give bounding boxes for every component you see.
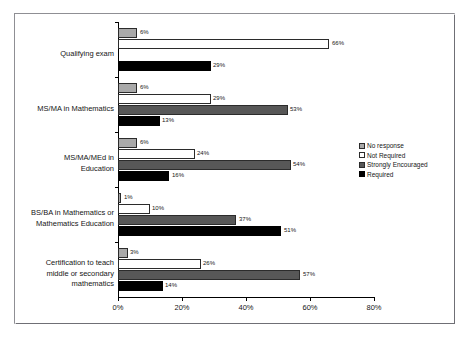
x-tick-label-1: 20%: [174, 303, 189, 312]
x-tick-0: [118, 297, 119, 301]
category-label-ms-ma-mathematics: MS/MA in Mathematics: [0, 104, 114, 115]
bar-value-no-response: 6%: [140, 82, 149, 93]
category-label-ms-ma-med-education: MS/MA/MEd in Education: [0, 153, 114, 174]
x-tick-label-0: 0%: [113, 303, 124, 312]
bar-no-response[interactable]: [118, 138, 137, 148]
bar-value-not-required: 29%: [213, 93, 225, 104]
x-tick-3: [310, 297, 311, 301]
x-tick-label-2: 40%: [238, 303, 253, 312]
bar-no-response[interactable]: [118, 28, 137, 38]
bar-no-response[interactable]: [118, 193, 121, 203]
legend-swatch-required-icon: [359, 171, 365, 177]
bar-strongly-encouraged[interactable]: [118, 270, 300, 280]
legend-item-required[interactable]: Required: [359, 170, 428, 180]
legend-label-strongly-encouraged: Strongly Encouraged: [367, 160, 428, 170]
legend-item-no-response[interactable]: No response: [359, 141, 428, 151]
bar-not-required[interactable]: [118, 39, 329, 49]
bar-required[interactable]: [118, 281, 163, 291]
legend-label-no-response: No response: [367, 141, 404, 151]
x-tick-2: [246, 297, 247, 301]
legend-swatch-not-required-icon: [359, 152, 365, 158]
y-tick-3: [115, 187, 118, 188]
bar-value-required: 29%: [213, 60, 225, 71]
bar-required[interactable]: [118, 61, 211, 71]
bar-required[interactable]: [118, 226, 281, 236]
x-tick-label-3: 60%: [302, 303, 317, 312]
legend-item-strongly-encouraged[interactable]: Strongly Encouraged: [359, 160, 428, 170]
category-label-certification: Certification to teach middle or seconda…: [0, 258, 114, 290]
bar-not-required[interactable]: [118, 149, 195, 159]
bar-value-strongly-encouraged: 53%: [290, 104, 302, 115]
category-label-qualifying-exam: Qualifying exam: [0, 49, 114, 60]
bar-value-required: 14%: [165, 280, 177, 291]
bar-not-required[interactable]: [118, 259, 201, 269]
chart-legend: No response Not Required Strongly Encour…: [359, 141, 428, 179]
y-tick-4: [115, 242, 118, 243]
category-label-bs-ba-mathematics: BS/BA in Mathematics or Mathematics Educ…: [0, 208, 114, 229]
bar-not-required[interactable]: [118, 94, 211, 104]
bar-value-not-required: 10%: [152, 203, 164, 214]
bar-value-no-response: 3%: [130, 247, 139, 258]
bar-not-required[interactable]: [118, 204, 150, 214]
chart-figure: Qualifying exam 6% 66% 29% MS/MA in Math…: [0, 0, 469, 338]
y-tick-0: [115, 22, 118, 23]
bar-value-strongly-encouraged: 54%: [293, 159, 305, 170]
legend-item-not-required[interactable]: Not Required: [359, 151, 428, 161]
bar-strongly-encouraged[interactable]: [118, 105, 288, 115]
y-tick-2: [115, 132, 118, 133]
bar-value-not-required: 66%: [332, 38, 344, 49]
bar-value-no-response: 6%: [140, 27, 149, 38]
bar-value-required: 51%: [284, 225, 296, 236]
bar-strongly-encouraged[interactable]: [118, 160, 291, 170]
bar-required[interactable]: [118, 116, 160, 126]
bar-value-not-required: 26%: [203, 258, 215, 269]
x-tick-4: [374, 297, 375, 301]
bar-no-response[interactable]: [118, 248, 128, 258]
y-tick-1: [115, 77, 118, 78]
bar-strongly-encouraged[interactable]: [118, 215, 236, 225]
bar-required[interactable]: [118, 171, 169, 181]
bar-value-required: 13%: [162, 115, 174, 126]
legend-swatch-strongly-encouraged-icon: [359, 162, 365, 168]
bar-value-required: 16%: [172, 170, 184, 181]
bar-value-strongly-encouraged: 57%: [303, 269, 315, 280]
bar-no-response[interactable]: [118, 83, 137, 93]
bar-value-not-required: 24%: [197, 148, 209, 159]
bar-value-no-response: 6%: [140, 137, 149, 148]
bar-value-no-response: 1%: [124, 192, 133, 203]
bar-value-strongly-encouraged: 37%: [239, 214, 251, 225]
x-tick-label-4: 80%: [366, 303, 381, 312]
legend-label-not-required: Not Required: [367, 151, 405, 161]
legend-label-required: Required: [367, 170, 393, 180]
legend-swatch-no-response-icon: [359, 143, 365, 149]
x-tick-1: [182, 297, 183, 301]
